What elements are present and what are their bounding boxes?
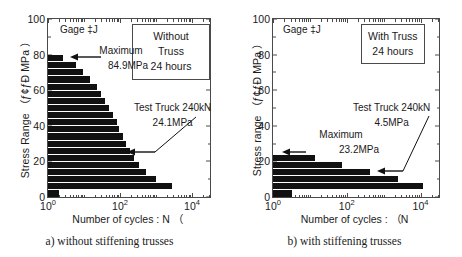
annotation-overlay-right [231, 0, 462, 257]
panel-without-truss: Stress Range （ƒ¢ƒÐ MPa ） 020406080100100… [0, 0, 231, 257]
annotation-overlay-left [0, 0, 231, 257]
figure-two-panel-stress-range-histograms: Stress Range （ƒ¢ƒÐ MPa ） 020406080100100… [0, 0, 462, 257]
panel-with-truss: Stress range （ƒ¢ƒÐ MPa ） 020406080100100… [231, 0, 462, 257]
